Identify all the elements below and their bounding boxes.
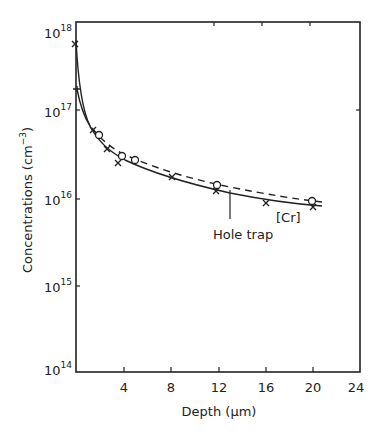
hole-trap-curve [92, 128, 322, 202]
hole-trap-markers [96, 132, 316, 205]
annotation-cr: [Cr] [276, 210, 301, 225]
y-tick-1e18: 1018 [44, 23, 72, 41]
y-tick-1e16: 1016 [44, 190, 72, 208]
cr-point [72, 41, 78, 47]
hole-trap-point [132, 157, 139, 164]
hole-trap-point [309, 198, 316, 205]
hole-trap-point [214, 182, 221, 189]
x-tick-20: 20 [305, 380, 322, 395]
cr-curve [76, 40, 322, 206]
x-tick-12: 12 [211, 380, 228, 395]
cr-point [263, 200, 269, 206]
y-tick-labels: 1018 1017 1016 1015 1014 [44, 23, 72, 378]
x-tick-8: 8 [167, 380, 175, 395]
x-tick-24: 24 [348, 380, 365, 395]
chart: 4 8 12 16 20 24 1018 1017 1016 1015 1014… [0, 0, 386, 441]
plot-frame [76, 22, 360, 372]
annotation-hole-trap: Hole trap [213, 227, 273, 242]
cr-point [115, 160, 121, 166]
y-ticks [76, 110, 360, 286]
y-axis-title: Concentrations (cm−3) [18, 127, 35, 273]
y-tick-1e15: 1015 [44, 277, 72, 295]
y-tick-1e17: 1017 [44, 102, 72, 120]
y-tick-1e14: 1014 [44, 360, 72, 378]
hole-trap-point [96, 132, 103, 139]
x-tick-labels: 4 8 12 16 20 24 [120, 380, 364, 395]
x-tick-4: 4 [120, 380, 128, 395]
x-tick-16: 16 [258, 380, 275, 395]
hole-trap-point [119, 153, 126, 160]
x-axis-title: Depth (μm) [182, 404, 257, 419]
